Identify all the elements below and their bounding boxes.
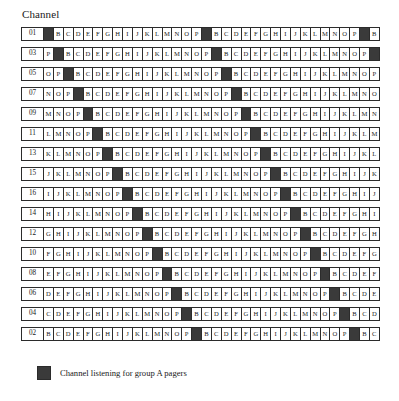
- channel-row: 12GHIJKLMNOPBCDEFGHIJKLMNOPBCDEFGH: [21, 227, 380, 241]
- slot-cell: C: [242, 68, 252, 80]
- slot-cell: H: [291, 68, 301, 80]
- slot-cell: G: [44, 228, 54, 240]
- slot-cell: K: [330, 88, 340, 100]
- slot-cell: J: [123, 328, 133, 340]
- slot-cell: P: [64, 88, 74, 100]
- channel-row-label: 01: [22, 28, 44, 40]
- slot-cell: B: [84, 88, 94, 100]
- slot-cell: G: [350, 208, 360, 220]
- slot-cell: B: [143, 208, 153, 220]
- slot-cell: L: [340, 88, 350, 100]
- slot-cell: O: [123, 228, 133, 240]
- slot-cell: H: [340, 168, 350, 180]
- slot-cell: F: [64, 288, 74, 300]
- slot-cell: D: [153, 188, 163, 200]
- slot-cell: D: [202, 288, 212, 300]
- slot-cell: G: [172, 168, 182, 180]
- slot-cell: F: [261, 48, 271, 60]
- slot-cell: N: [54, 108, 64, 120]
- slot-cell: G: [222, 268, 232, 280]
- slot-cell: I: [133, 48, 143, 60]
- slot-cell: F: [113, 68, 123, 80]
- slot-cell-marked: [64, 68, 74, 80]
- channel-slot-strip: BCDEFGHIJKLMNOPBCDEFGHIJKLMNOPB: [44, 28, 379, 40]
- slot-cell: N: [321, 328, 331, 340]
- slot-cell: C: [222, 28, 232, 40]
- slot-cell: O: [311, 288, 321, 300]
- slot-cell: P: [133, 228, 143, 240]
- slot-cell: B: [192, 308, 202, 320]
- slot-cell: G: [93, 328, 103, 340]
- channel-row-label: 16: [22, 188, 44, 200]
- slot-cell: E: [123, 108, 133, 120]
- slot-cell: D: [133, 148, 143, 160]
- slot-cell: O: [133, 248, 143, 260]
- slot-cell: G: [192, 208, 202, 220]
- slot-cell: L: [163, 48, 173, 60]
- slot-cell: L: [93, 228, 103, 240]
- slot-cell: D: [172, 228, 182, 240]
- slot-cell: L: [350, 108, 360, 120]
- slot-cell: L: [153, 28, 163, 40]
- slot-cell: N: [291, 268, 301, 280]
- slot-cell: I: [192, 168, 202, 180]
- slot-cell: G: [281, 68, 291, 80]
- slot-cell: P: [153, 268, 163, 280]
- slot-cell: G: [103, 28, 113, 40]
- slot-cell: C: [84, 68, 94, 80]
- slot-cell: N: [242, 168, 252, 180]
- slot-cell: B: [340, 288, 350, 300]
- slot-cell: F: [54, 268, 64, 280]
- slot-cell: J: [182, 128, 192, 140]
- slot-cell: L: [261, 248, 271, 260]
- slot-cell: G: [54, 248, 64, 260]
- slot-cell-marked: [93, 128, 103, 140]
- slot-cell: I: [103, 308, 113, 320]
- slot-cell: N: [301, 288, 311, 300]
- slot-cell: N: [103, 208, 113, 220]
- slot-cell: M: [212, 128, 222, 140]
- channel-slot-diagram: Channel 01BCDEFGHIJKLMNOPBCDEFGHIJKLMNOP…: [0, 0, 399, 401]
- slot-cell: G: [321, 148, 331, 160]
- slot-cell: F: [93, 28, 103, 40]
- slot-cell: C: [143, 188, 153, 200]
- slot-cell: E: [163, 188, 173, 200]
- slot-cell: N: [212, 108, 222, 120]
- slot-cell: P: [212, 68, 222, 80]
- slot-cell: K: [153, 48, 163, 60]
- slot-cell: F: [340, 208, 350, 220]
- axis-title-channel: Channel: [22, 8, 59, 20]
- slot-cell: L: [44, 128, 54, 140]
- slot-cell: I: [370, 208, 379, 220]
- slot-cell: J: [133, 28, 143, 40]
- slot-cell: F: [153, 148, 163, 160]
- slot-cell: P: [44, 48, 54, 60]
- slot-cell: J: [242, 248, 252, 260]
- slot-cell: C: [153, 208, 163, 220]
- slot-cell: E: [103, 68, 113, 80]
- channel-slot-strip: LMNOPBCDEFGHIJKLMNOPBCDEFGHIJKLM: [44, 128, 379, 140]
- slot-cell: J: [321, 88, 331, 100]
- slot-cell: H: [350, 188, 360, 200]
- slot-cell: D: [93, 68, 103, 80]
- slot-cell: K: [172, 88, 182, 100]
- slot-cell: B: [330, 268, 340, 280]
- slot-cell-marked: [350, 328, 360, 340]
- slot-cell: L: [192, 108, 202, 120]
- slot-cell: F: [370, 268, 379, 280]
- channel-slot-strip: FGHIJKLMNOPBCDEFGHIJKLMNOPBCDEFG: [44, 248, 379, 260]
- slot-cell: J: [143, 48, 153, 60]
- slot-cell: M: [74, 168, 84, 180]
- slot-cell: H: [133, 68, 143, 80]
- slot-cell: O: [360, 68, 370, 80]
- slot-cell: G: [360, 228, 370, 240]
- slot-cell: J: [281, 328, 291, 340]
- slot-cell: D: [232, 28, 242, 40]
- slot-cell: O: [350, 48, 360, 60]
- slot-cell: O: [84, 148, 94, 160]
- slot-cell: N: [74, 148, 84, 160]
- slot-cell: O: [202, 68, 212, 80]
- slot-cell: G: [143, 108, 153, 120]
- slot-cell: P: [182, 328, 192, 340]
- slot-cell: E: [64, 308, 74, 320]
